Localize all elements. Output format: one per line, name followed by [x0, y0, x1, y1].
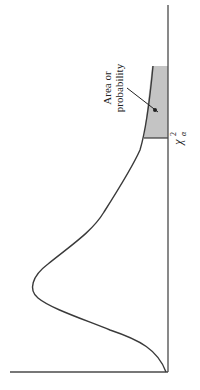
chi-square-plot: Area or probability χ 2 α — [0, 0, 200, 390]
svg-text:χ: χ — [171, 139, 185, 146]
arrow-tip — [153, 108, 157, 112]
svg-text:α: α — [179, 131, 188, 136]
annotation-line1: Area or — [101, 71, 113, 105]
svg-text:2: 2 — [169, 132, 178, 136]
density-curve — [33, 66, 166, 372]
shaded-tail-area — [144, 66, 168, 138]
critical-value-label: χ 2 α — [169, 131, 188, 146]
annotation-line2: probability — [113, 63, 125, 112]
